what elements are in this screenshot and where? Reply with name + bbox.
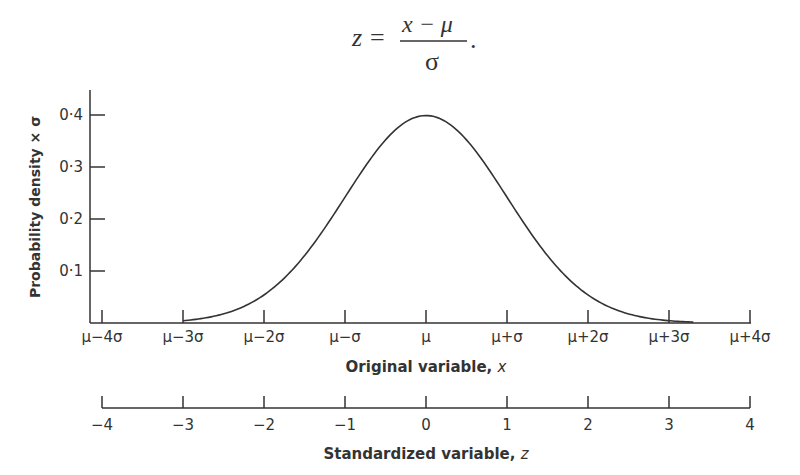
x-tick-label: μ−3σ [162, 328, 204, 346]
x-ticks-original: μ−4σμ−3σμ−2σμ−σμμ+σμ+2σμ+3σμ+4σ [81, 310, 771, 346]
x-tick-label: μ+σ [491, 328, 523, 346]
z-tick-label: 3 [664, 416, 674, 434]
y-axis-label: Probability density × σ [27, 116, 43, 298]
normal-distribution-chart: 0·10·20·30·4 μ−4σμ−3σμ−2σμ−σμμ+σμ+2σμ+3σ… [0, 0, 800, 475]
z-tick-label: 1 [502, 416, 512, 434]
z-tick-label: −3 [172, 416, 194, 434]
x-tick-label: μ−4σ [81, 328, 123, 346]
x-tick-label: μ+2σ [567, 328, 609, 346]
x-ticks-standardized: −4−3−2−101234 [91, 396, 755, 434]
y-tick-label: 0·3 [59, 158, 83, 176]
z-axis-label: Standardized variable, z [323, 445, 529, 463]
y-ticks: 0·10·20·30·4 [59, 106, 105, 280]
x-tick-label: μ+3σ [648, 328, 690, 346]
x-tick-label: μ−σ [329, 328, 361, 346]
z-tick-label: −2 [253, 416, 275, 434]
y-tick-label: 0·4 [59, 106, 83, 124]
x-tick-label: μ+4σ [729, 328, 771, 346]
z-tick-label: −1 [334, 416, 356, 434]
y-tick-label: 0·2 [59, 210, 83, 228]
z-tick-label: 2 [583, 416, 593, 434]
z-tick-label: 4 [745, 416, 755, 434]
density-curve [183, 116, 693, 323]
z-tick-label: −4 [91, 416, 113, 434]
x-tick-label: μ−2σ [243, 328, 285, 346]
x-axis-label: Original variable, x [346, 358, 507, 376]
y-tick-label: 0·1 [59, 262, 83, 280]
z-tick-label: 0 [421, 416, 431, 434]
x-tick-label: μ [421, 328, 431, 346]
